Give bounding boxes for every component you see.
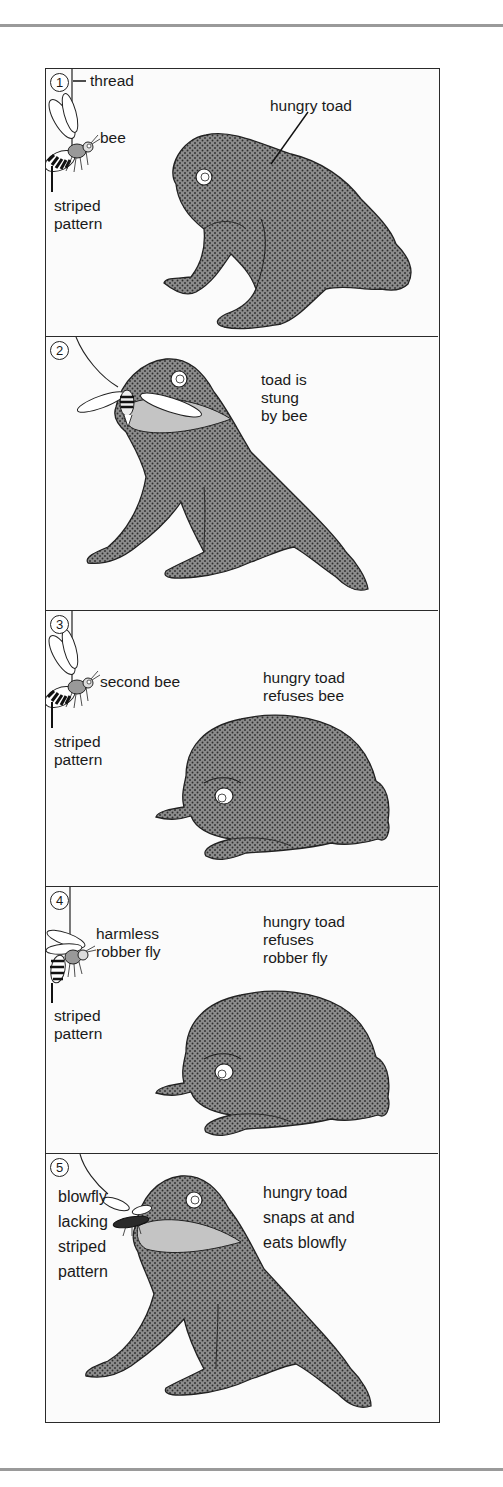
panel-number-badge: 2 [50,341,69,360]
panel-5: 5 blowfly lacking striped pattern hungry… [46,1153,438,1422]
bottom-divider-rule [0,1468,503,1471]
panel-number-badge: 5 [50,1158,69,1177]
panel-2: 2 toad is stung by bee [46,336,438,611]
toad-refuses-robber-fly-caption: hungry toad refuses robber fly [263,913,345,967]
bee-label: bee [100,129,126,147]
thread-label: thread [90,72,134,90]
striped-pattern-label: striped pattern [54,1007,102,1043]
robber-fly-icon [46,927,96,984]
top-divider-rule [0,24,503,27]
toad-refusing-icon [156,991,389,1135]
panel-number-badge: 1 [50,73,69,92]
toad-eats-blowfly-caption: hungry toad snaps at and eats blowfly [263,1180,355,1255]
toad-hungry-icon [164,134,411,329]
panel-4: 4 harmless robber fly striped pattern hu… [46,886,438,1154]
toad-stung-caption: toad is stung by bee [261,371,308,425]
second-bee-icon [46,628,100,712]
harmless-robber-fly-label: harmless robber fly [96,925,161,961]
panel-number-badge: 4 [50,891,69,910]
panel-3: 3 second bee striped pattern hungry toad… [46,610,438,887]
toad-refuses-bee-caption: hungry toad refuses bee [263,669,345,705]
striped-pattern-label: striped pattern [54,733,102,769]
second-bee-label: second bee [100,673,180,691]
bee-icon [46,92,100,176]
striped-pattern-label: striped pattern [54,197,102,233]
mimicry-experiment-figure: 1 thread bee striped pattern hungry toad [45,68,440,1423]
panel-3-illustration [46,611,438,887]
hungry-toad-label: hungry toad [270,97,352,115]
panel-2-illustration [46,337,438,611]
panel-1: 1 thread bee striped pattern hungry toad [46,69,438,336]
panel-number-badge: 3 [50,615,69,634]
toad-refusing-icon [156,715,389,859]
panel-1-illustration [46,69,438,336]
thread-line [76,337,118,387]
blowfly-label: blowfly lacking striped pattern [58,1184,108,1284]
